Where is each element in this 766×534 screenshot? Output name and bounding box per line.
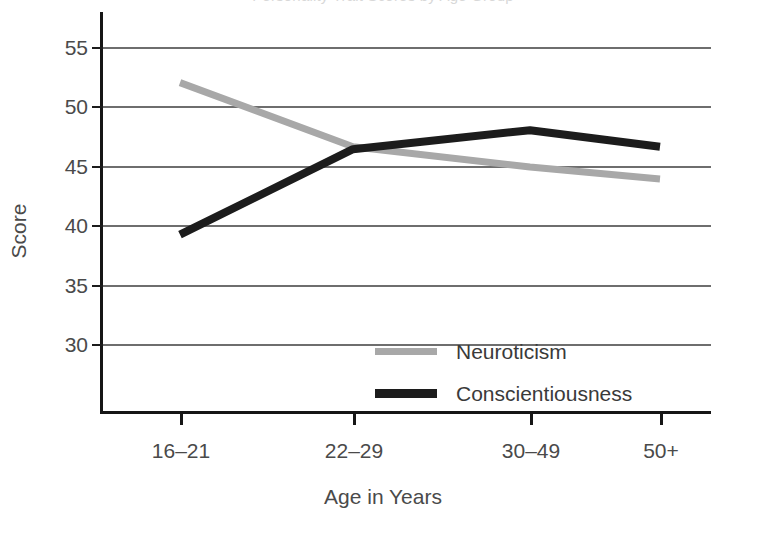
- y-tick-label-35: 35: [65, 275, 88, 296]
- y-tick-55: [92, 47, 103, 49]
- x-tick-label-30-49: 30–49: [502, 440, 560, 461]
- legend-label-neuroticism: Neuroticism: [456, 341, 567, 362]
- y-tick-label-50: 50: [65, 96, 88, 117]
- y-tick-30: [92, 344, 103, 346]
- legend-swatch-conscientiousness: [375, 389, 437, 398]
- series-line-neuroticism: [180, 83, 660, 179]
- y-tick-label-45: 45: [65, 156, 88, 177]
- y-tick-50: [92, 106, 103, 108]
- legend-item-neuroticism: Neuroticism: [375, 330, 715, 372]
- legend-label-conscientiousness: Conscientiousness: [456, 383, 632, 404]
- chart-title-cropped: Personality Trait Scores by Age Group: [0, 0, 766, 12]
- x-tick-16-21: [180, 414, 183, 425]
- x-tick-label-22-29: 22–29: [325, 440, 383, 461]
- y-tick-label-30: 30: [65, 334, 88, 355]
- x-axis-title: Age in Years: [0, 486, 766, 507]
- x-tick-label-16-21: 16–21: [152, 440, 210, 461]
- legend-item-conscientiousness: Conscientiousness: [375, 372, 715, 414]
- x-tick-50-plus: [660, 414, 663, 425]
- gridline-40: [103, 225, 711, 227]
- y-tick-label-55: 55: [65, 37, 88, 58]
- y-tick-label-40: 40: [65, 215, 88, 236]
- y-tick-40: [92, 225, 103, 227]
- plot-area: 55 50 45 40 35 30 16–21 22–29 30–49 50+: [103, 12, 711, 414]
- x-tick-30-49: [530, 414, 533, 425]
- y-tick-45: [92, 166, 103, 168]
- gridline-50: [103, 106, 711, 108]
- series-line-conscientiousness: [180, 130, 660, 235]
- y-tick-35: [92, 285, 103, 287]
- y-axis-line: [100, 12, 103, 414]
- y-axis-title: Score: [8, 204, 29, 259]
- chart-title-text: Personality Trait Scores by Age Group: [252, 0, 514, 4]
- line-chart: Personality Trait Scores by Age Group Sc…: [0, 0, 766, 534]
- chart-legend: Neuroticism Conscientiousness: [375, 330, 715, 414]
- gridline-45: [103, 166, 711, 168]
- legend-swatch-neuroticism: [375, 348, 437, 355]
- x-tick-label-50-plus: 50+: [643, 440, 679, 461]
- x-tick-22-29: [353, 414, 356, 425]
- gridline-55: [103, 47, 711, 49]
- gridline-35: [103, 285, 711, 287]
